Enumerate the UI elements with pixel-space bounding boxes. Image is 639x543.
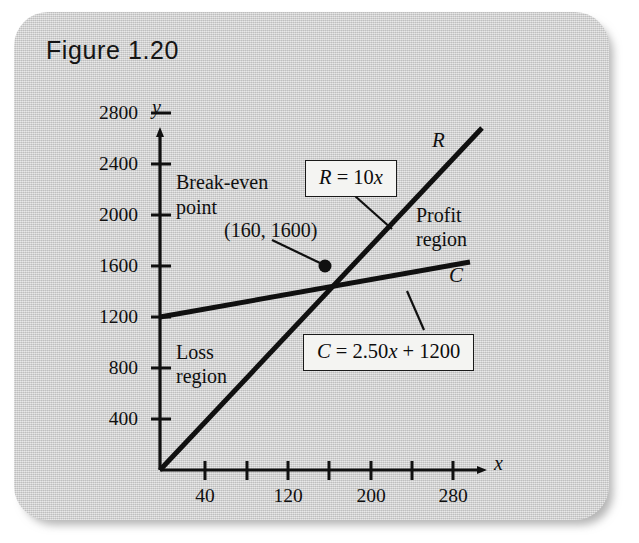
y-axis-label: y — [152, 96, 161, 119]
y-tick-label-2000: 2000 — [72, 204, 138, 226]
revenue-equation-leader-line — [355, 196, 392, 229]
figure-container: Figure 1.20 — [0, 0, 639, 543]
cost-equation-leader-line — [407, 291, 424, 330]
loss-region-line1: Loss — [176, 340, 227, 364]
y-tick-label-1600: 1600 — [72, 255, 138, 277]
y-tick-label-2800: 2800 — [72, 102, 138, 124]
y-tick-label-2400: 2400 — [72, 153, 138, 175]
revenue-equation-rhs: = 10 — [332, 166, 374, 188]
revenue-line-label: R — [432, 128, 445, 153]
x-axis-label: x — [494, 452, 503, 475]
loss-region-label: Loss region — [176, 340, 227, 388]
y-tick-label-1200: 1200 — [72, 306, 138, 328]
x-tick-label-200: 200 — [341, 485, 401, 507]
profit-region-label: Profit region — [416, 203, 467, 251]
revenue-equation-lhs: R — [319, 166, 332, 188]
x-tick-label-280: 280 — [423, 485, 483, 507]
break-even-coordinates: (160, 1600) — [224, 218, 317, 243]
cost-line-label: C — [449, 263, 463, 288]
cost-equation-box: C = 2.50x + 1200 — [303, 334, 474, 371]
x-tick-label-120: 120 — [258, 485, 318, 507]
y-tick-label-800: 800 — [72, 357, 138, 379]
x-tick-label-40: 40 — [175, 485, 235, 507]
profit-region-line2: region — [416, 227, 467, 251]
break-even-line2: point — [176, 195, 268, 220]
break-even-leader-line — [272, 240, 320, 263]
cost-equation-rhs-b: + 1200 — [397, 340, 460, 362]
revenue-equation-variable: x — [374, 166, 383, 188]
plot-area: y x 400 800 1200 1600 2000 2400 2800 40 … — [0, 0, 639, 543]
break-even-line1: Break-even — [176, 170, 268, 195]
cost-equation-rhs-a: = 2.50 — [331, 340, 389, 362]
cost-equation-lhs: C — [317, 340, 331, 362]
profit-region-line1: Profit — [416, 203, 467, 227]
break-even-annotation: Break-even point — [176, 170, 268, 220]
y-tick-label-400: 400 — [72, 408, 138, 430]
loss-region-line2: region — [176, 364, 227, 388]
revenue-equation-box: R = 10x — [305, 160, 397, 197]
break-even-point-dot — [319, 260, 332, 273]
